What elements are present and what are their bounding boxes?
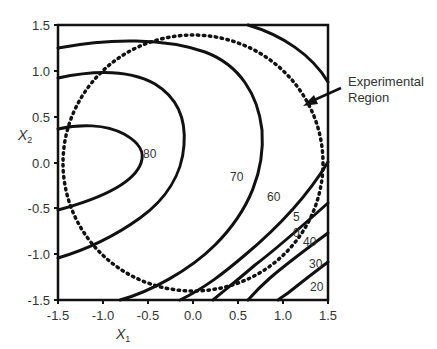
x-axis-title: X1 — [115, 326, 130, 344]
x-tick-label: 1.5 — [319, 308, 337, 323]
contour-labels: 80 70 60 5 0 40 30 20 — [143, 147, 324, 294]
contour-lines — [58, 25, 328, 300]
y-tick-label: -0.5 — [28, 201, 50, 216]
contour-label-80: 80 — [143, 147, 157, 161]
contour-label-20: 20 — [310, 280, 324, 294]
contour-70 — [58, 73, 184, 258]
x-tick-label: -1.5 — [47, 308, 69, 323]
contour-label-30: 30 — [309, 257, 323, 271]
y-tick-label: 1.5 — [32, 18, 50, 33]
x-tick-label: 1.0 — [274, 308, 292, 323]
annotation-region: Region — [348, 90, 389, 105]
contour-label-70: 70 — [230, 170, 244, 184]
contour-label-40: 40 — [303, 235, 317, 249]
y-tick-label: 0.0 — [32, 156, 50, 171]
x-tick-label: 0.0 — [184, 308, 202, 323]
contour-plot: -1.5 -1.0 -0.5 0.0 0.5 1.0 1.5 1.5 1.0 0… — [0, 0, 437, 349]
x-tick-label: -1.0 — [92, 308, 114, 323]
y-tick-label: -1.5 — [28, 293, 50, 308]
x-tick-label: 0.5 — [229, 308, 247, 323]
y-axis-title: X2 — [17, 127, 32, 145]
plot-frame — [58, 25, 328, 300]
contour-label-60: 60 — [267, 190, 281, 204]
x-tick-label: -0.5 — [137, 308, 159, 323]
x-axis-tick-labels: -1.5 -1.0 -0.5 0.0 0.5 1.0 1.5 — [47, 308, 337, 323]
contour-80 — [58, 126, 142, 210]
experimental-region-circle — [63, 35, 323, 291]
y-tick-label: -1.0 — [28, 247, 50, 262]
contour-label-50-a: 5 — [293, 210, 300, 224]
annotation-experimental: Experimental — [348, 74, 424, 89]
annotation-arrow-icon — [303, 88, 341, 106]
y-tick-label: 0.5 — [32, 110, 50, 125]
y-axis-tick-labels: 1.5 1.0 0.5 0.0 -0.5 -1.0 -1.5 — [28, 18, 50, 308]
contour-label-50-b: 0 — [293, 226, 300, 240]
y-tick-label: 1.0 — [32, 64, 50, 79]
